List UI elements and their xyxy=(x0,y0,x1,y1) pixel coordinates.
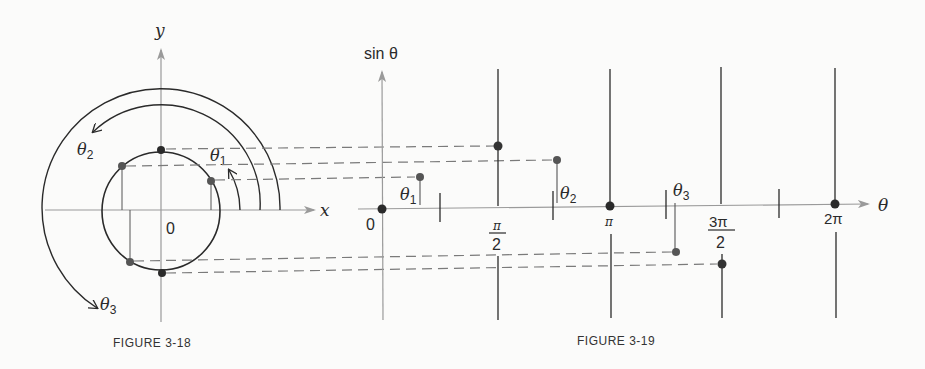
figure-3-18: y x 0 θ1 θ2 θ3 FIGURE 3-18 xyxy=(42,20,330,350)
connector-theta2 xyxy=(126,160,553,166)
half-pi-denominator: 2 xyxy=(492,236,501,253)
pi-label: π xyxy=(604,215,614,229)
point-theta1 xyxy=(207,177,215,185)
figure-3-19-caption: FIGURE 3-19 xyxy=(577,334,655,348)
point-theta2 xyxy=(553,156,561,164)
point-origin xyxy=(378,205,387,214)
connector-three-half-pi xyxy=(166,264,717,273)
point-theta2 xyxy=(118,162,126,170)
theta3-label: θ3 xyxy=(673,181,690,203)
figure-3-18-caption: FIGURE 3-18 xyxy=(113,336,191,350)
origin-label: 0 xyxy=(366,216,375,233)
theta1-arc xyxy=(229,170,240,210)
theta3-label: θ3 xyxy=(100,295,117,317)
point-pi xyxy=(606,202,615,211)
point-theta3 xyxy=(126,258,134,266)
theta2-label: θ2 xyxy=(560,184,577,206)
point-theta3 xyxy=(672,248,680,256)
figure-3-19: sin θ θ 0 π 2 π 3π 2 2π θ1 θ2 θ3 FIGURE … xyxy=(358,45,888,348)
point-three-half-pi xyxy=(718,260,727,269)
two-pi-label: 2π xyxy=(824,210,843,227)
half-pi-numerator: π xyxy=(492,219,502,233)
sin-axis-label: sin θ xyxy=(364,45,398,62)
point-half-pi xyxy=(494,142,503,151)
diagram-canvas: y x 0 θ1 θ2 θ3 FIGURE 3-18 xyxy=(0,0,925,369)
three-half-pi-denominator: 2 xyxy=(716,234,725,251)
origin-label: 0 xyxy=(166,220,175,237)
point-two-pi xyxy=(831,200,840,209)
point-three-half-pi xyxy=(158,269,166,277)
point-half-pi xyxy=(157,146,165,154)
theta-axis-label: θ xyxy=(878,195,888,215)
sin-axis xyxy=(382,72,383,320)
point-theta1 xyxy=(416,173,424,181)
theta2-label: θ2 xyxy=(77,140,94,162)
x-axis-label: x xyxy=(320,200,330,220)
y-axis-label: y xyxy=(154,20,165,40)
connector-theta1 xyxy=(215,177,415,180)
three-half-pi-numerator: 3π xyxy=(709,213,728,230)
theta2-arc xyxy=(93,105,260,210)
connector-theta3 xyxy=(134,252,672,261)
theta1-label: θ1 xyxy=(400,185,417,207)
